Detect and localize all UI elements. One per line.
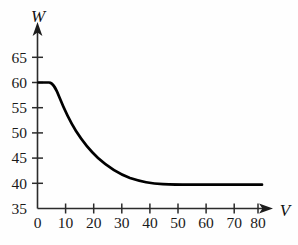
x-tick-label: 0 [34,214,42,231]
y-tick-label: 65 [12,49,28,66]
x-tick-label: 10 [58,214,74,231]
x-tick-label: 50 [170,214,186,231]
data-curve [39,83,263,185]
y-tick-label: 35 [12,200,28,217]
y-tick-label: 40 [12,175,28,192]
y-tick-label: 50 [12,124,28,141]
x-tick-labels: 0 10 20 30 40 50 60 70 80 [34,214,266,231]
x-tick-label: 20 [86,214,102,231]
y-tick-label: 60 [12,74,28,91]
x-tick-label: 70 [226,214,242,231]
x-tick-label: 80 [250,214,266,231]
y-tick-label: 45 [12,149,28,166]
x-axis-title: V [280,201,293,220]
y-axis-title: W [31,7,47,26]
y-tick-labels: 65 60 55 50 45 40 35 [12,49,28,217]
chart-canvas: 65 60 55 50 45 40 35 0 10 20 30 40 50 60… [0,0,298,245]
y-tick-label: 55 [12,99,28,116]
figure-container: 65 60 55 50 45 40 35 0 10 20 30 40 50 60… [0,0,298,245]
x-tick-label: 30 [114,214,130,231]
x-tick-label: 60 [198,214,214,231]
x-tick-label: 40 [142,214,158,231]
